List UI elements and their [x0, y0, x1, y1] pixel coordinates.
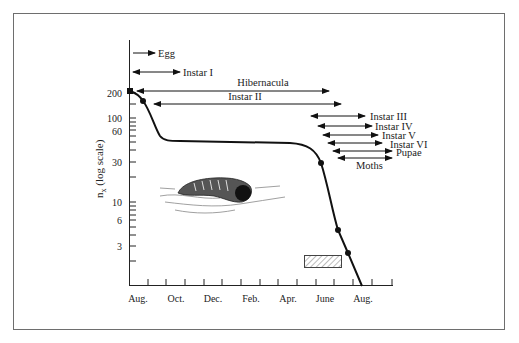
y-tick-30: 30 — [112, 157, 122, 168]
instar1-label: Instar I — [183, 67, 214, 78]
moths-label: Moths — [356, 160, 383, 171]
pupae-label: Pupae — [396, 147, 422, 158]
x-tick-feb: Feb. — [242, 293, 260, 304]
y-tick-200: 200 — [107, 88, 122, 99]
x-tick-aug-2: Aug. — [353, 293, 373, 304]
x-tick-apr: Apr. — [279, 293, 297, 304]
egg-label: Egg — [158, 48, 176, 59]
data-point — [127, 88, 133, 94]
y-axis-label: nx (log scale) — [93, 139, 108, 198]
x-tick-aug: Aug. — [128, 293, 148, 304]
x-axis: Aug. Oct. Dec. Feb. Apr. June Aug. — [128, 279, 393, 304]
caterpillar-illustration — [160, 178, 285, 213]
data-points — [127, 88, 351, 256]
hibernacula-label: Hibernacula — [237, 77, 289, 88]
y-tick-60: 60 — [112, 126, 122, 137]
y-tick-100: 100 — [107, 113, 122, 124]
data-point — [140, 98, 146, 104]
instar2-label: Instar II — [228, 91, 262, 102]
y-tick-10: 10 — [112, 197, 122, 208]
data-point — [318, 160, 324, 166]
y-tick-6: 6 — [117, 215, 122, 226]
x-tick-june: June — [316, 293, 335, 304]
y-tick-3: 3 — [117, 241, 122, 252]
x-tick-dec: Dec. — [204, 293, 223, 304]
y-axis: 200 100 60 30 10 6 3 nx (log scale) — [93, 40, 136, 286]
data-point — [345, 250, 351, 256]
survivorship-chart: 200 100 60 30 10 6 3 nx (log scale) — [0, 0, 519, 343]
data-point — [335, 227, 341, 233]
hatched-box — [305, 256, 342, 268]
x-tick-oct: Oct. — [168, 293, 185, 304]
